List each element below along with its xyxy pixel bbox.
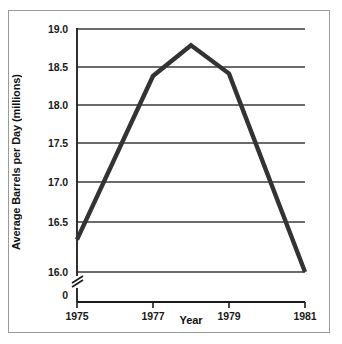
gridlines [77, 29, 305, 272]
ytick-label-19-0: 19.0 [18, 23, 68, 35]
data-line-average-barrels [77, 45, 305, 272]
x-axis-title: Year [77, 314, 305, 326]
ytick-label-16-5: 16.5 [18, 216, 68, 228]
ytick-label-18-5: 18.5 [18, 61, 68, 73]
y-axis-break-icon [72, 276, 83, 287]
chart-figure: 19.0 18.5 18.0 17.5 17.0 16.5 16.0 0 197… [0, 0, 342, 344]
ytick-label-17-0: 17.0 [18, 176, 68, 188]
y-axis-title: Average Barrels per Day (millions) [8, 52, 24, 272]
ytick-label-17-5: 17.5 [18, 137, 68, 149]
ytick-label-18-0: 18.0 [18, 99, 68, 111]
ytick-label-0: 0 [18, 289, 68, 301]
ytick-label-16-0: 16.0 [18, 266, 68, 278]
